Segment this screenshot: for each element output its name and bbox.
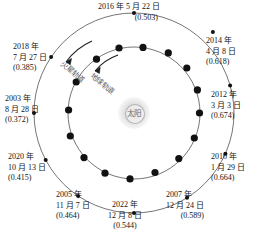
- opposition-label-2005: 2005 年 11 月 7 日 (0.464): [56, 190, 90, 222]
- opposition-distance-2022: (0.544): [108, 221, 142, 232]
- opposition-distance-2010: (0.664): [211, 173, 245, 184]
- opposition-distance-2012: (0.674): [211, 111, 241, 122]
- opposition-date-2012: 3 月 3 日: [211, 101, 241, 112]
- opposition-date-2010: 1 月 29 日: [211, 163, 245, 174]
- opposition-label-2022: 2022 年 12 月 8 日 (0.544): [108, 200, 142, 232]
- earth-dot: [115, 44, 122, 51]
- opposition-year-2005: 2005 年: [56, 190, 90, 201]
- opposition-distance-2014: (0.618): [206, 57, 236, 68]
- opposition-year-2003: 2003 年: [5, 94, 39, 105]
- earth-dot: [194, 86, 201, 93]
- opposition-date-2016: 2016 年 5 月 22 日: [98, 2, 160, 13]
- opposition-year-2007: 2007 年: [166, 190, 204, 201]
- opposition-distance-2007: (0.589): [166, 211, 204, 222]
- opposition-date-2022: 12 月 8 日: [108, 211, 142, 222]
- opposition-label-2016: 2016 年 5 月 22 日 (0.503): [98, 2, 160, 23]
- sun-marker: 太阳: [118, 97, 150, 129]
- opposition-date-2007: 12 月 24 日: [166, 201, 204, 212]
- opposition-distance-2005: (0.464): [56, 211, 90, 222]
- opposition-date-2005: 11 月 7 日: [56, 201, 90, 212]
- opposition-year-2022: 2022 年: [108, 200, 142, 211]
- opposition-label-2018: 2018 年 7 月 27 日 (0.385): [13, 42, 47, 74]
- mars-dot-2012: [228, 83, 232, 87]
- earth-dot: [67, 132, 74, 139]
- earth-dot: [151, 169, 158, 176]
- opposition-date-2014: 4 月 8 日: [206, 47, 236, 58]
- opposition-label-2003: 2003 年 8 月 28 日 (0.372): [5, 94, 39, 126]
- earth-dot: [165, 49, 172, 56]
- sun-label: 太阳: [118, 107, 150, 118]
- earth-dot: [101, 170, 108, 177]
- opposition-distance-2018: (0.385): [13, 63, 47, 74]
- earth-dot: [126, 175, 133, 182]
- opposition-date-2003: 8 月 28 日: [5, 105, 39, 116]
- mars-dot-2014: [211, 30, 215, 34]
- opposition-label-2010: 2010 年 1 月 29 日 (0.664): [211, 152, 245, 184]
- earth-dot: [183, 64, 190, 71]
- opposition-distance-2020: (0.415): [8, 173, 46, 184]
- earth-dot: [65, 106, 72, 113]
- mars-dot-2018: [49, 55, 53, 59]
- earth-dot: [175, 155, 182, 162]
- earth-dot: [191, 134, 198, 141]
- opposition-label-2007: 2007 年 12 月 24 日 (0.589): [166, 190, 204, 222]
- mars-opposition-diagram: 太阳 火星轨道 地球轨道 2016 年 5 月 22 日 (0.503) 201…: [0, 0, 268, 237]
- opposition-label-2012: 2012 年 3 月 3 日 (0.674): [211, 90, 241, 122]
- opposition-year-2014: 2014 年: [206, 36, 236, 47]
- earth-dot: [139, 44, 146, 51]
- earth-dot: [93, 56, 100, 63]
- opposition-label-2014: 2014 年 4 月 8 日 (0.618): [206, 36, 236, 68]
- opposition-year-2010: 2010 年: [211, 152, 245, 163]
- opposition-year-2020: 2020 年: [8, 152, 46, 163]
- opposition-label-2020: 2020 年 10 月 13 日 (0.415): [8, 152, 46, 184]
- opposition-distance-2016: (0.503): [98, 13, 160, 24]
- opposition-year-2018: 2018 年: [13, 42, 47, 53]
- opposition-distance-2003: (0.372): [5, 115, 39, 126]
- earth-dot: [196, 109, 203, 116]
- opposition-date-2020: 10 月 13 日: [8, 163, 46, 174]
- earth-dot: [80, 154, 87, 161]
- opposition-date-2018: 7 月 27 日: [13, 53, 47, 64]
- opposition-year-2012: 2012 年: [211, 90, 241, 101]
